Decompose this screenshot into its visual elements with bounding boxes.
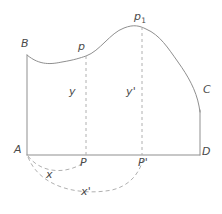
- label-ordinate-y: y: [69, 86, 76, 97]
- label-vertex-d: D: [202, 146, 211, 157]
- label-abscissa-x-prime: x': [81, 186, 91, 197]
- label-point-p-one-subscript: 1: [141, 16, 146, 25]
- label-point-p-one: p1: [134, 11, 146, 25]
- figure-svg: [0, 0, 222, 214]
- label-vertex-c: C: [203, 84, 211, 95]
- arc-x: [28, 156, 85, 171]
- label-ordinate-y-prime: y': [126, 86, 136, 97]
- diagram-canvas: A B C D p p1 P P' y y' x x': [0, 0, 222, 214]
- label-point-p-upper: p: [78, 41, 85, 52]
- label-vertex-b: B: [21, 38, 29, 49]
- label-abscissa-x: x: [46, 169, 53, 180]
- label-point-p-prime-base: P': [138, 157, 148, 168]
- label-point-p-base: P: [80, 157, 87, 168]
- label-vertex-a: A: [14, 144, 22, 155]
- top-curve-bc: [27, 26, 200, 112]
